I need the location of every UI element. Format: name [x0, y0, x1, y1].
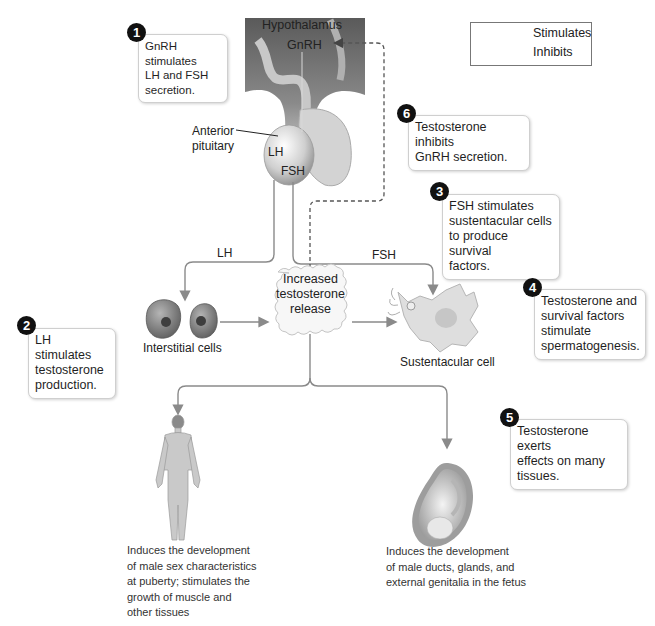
- lh-inside-label: LH: [268, 145, 283, 159]
- step-1-line: GnRH stimulates: [145, 39, 221, 68]
- step-2-callout: LH stimulates testosterone production.: [28, 328, 116, 399]
- step-6-badge: 6: [397, 104, 416, 123]
- sustentacular-cell-illustration: [388, 284, 478, 352]
- step-3-line: to produce survival: [449, 229, 553, 259]
- caption-line: other tissues: [127, 605, 257, 621]
- step-5-callout: Testosterone exerts effects on many tiss…: [510, 419, 628, 490]
- step-4-line: Testosterone and: [541, 294, 639, 309]
- caption-line: of male sex characteristics: [127, 559, 257, 575]
- testosterone-release-node: Increased testosterone release: [268, 265, 353, 333]
- fetus-illustration: [412, 463, 473, 547]
- step-1-line: secretion.: [145, 83, 221, 98]
- fsh-inside-label: FSH: [281, 164, 305, 178]
- step-2-line: production.: [35, 378, 109, 393]
- interstitial-cells-label: Interstitial cells: [143, 341, 222, 355]
- lh-arrow-label: LH: [217, 246, 232, 260]
- fsh-arrow-label: FSH: [372, 248, 396, 262]
- caption-line: Induces the development: [127, 543, 257, 559]
- interstitial-cells-illustration: [146, 300, 217, 338]
- sustentacular-cell-label: Sustentacular cell: [400, 355, 495, 369]
- adult-effects-caption: Induces the development of male sex char…: [127, 543, 257, 621]
- release-to-fetus-arrow: [310, 378, 447, 444]
- step-4-callout: Testosterone and survival factors stimul…: [534, 289, 646, 360]
- legend-inhibits: Inhibits: [533, 45, 573, 59]
- step-1-callout: GnRH stimulates LH and FSH secretion.: [138, 34, 228, 103]
- caption-line: Induces the development: [386, 544, 526, 560]
- anterior-pituitary-label-1: Anterior: [192, 124, 234, 138]
- caption-line: external genitalia in the fetus: [386, 575, 526, 591]
- adult-male-illustration: [156, 415, 200, 540]
- step-3-badge: 3: [430, 182, 449, 201]
- step-3-line: factors.: [449, 259, 553, 274]
- release-line-2: testosterone: [268, 287, 353, 302]
- step-3-line: sustentacular cells: [449, 214, 553, 229]
- step-6-callout: Testosterone inhibits GnRH secretion.: [408, 115, 530, 171]
- legend-inhibits-label: Inhibits: [533, 45, 573, 59]
- step-2-line: testosterone: [35, 363, 109, 378]
- step-4-line: spermatogenesis.: [541, 339, 639, 354]
- legend-stimulates: Stimulates: [533, 26, 591, 40]
- step-5-line: effects on many: [517, 454, 621, 469]
- fetus-effects-caption: Induces the development of male ducts, g…: [386, 544, 526, 591]
- caption-line: growth of muscle and: [127, 590, 257, 606]
- step-5-line: Testosterone exerts: [517, 424, 621, 454]
- step-4-line: survival factors: [541, 309, 639, 324]
- caption-line: at puberty; stimulates the: [127, 574, 257, 590]
- step-6-line: Testosterone inhibits: [415, 120, 523, 150]
- anterior-pituitary-label-2: pituitary: [192, 139, 234, 153]
- step-5-badge: 5: [500, 408, 519, 427]
- step-3-line: FSH stimulates: [449, 199, 553, 214]
- release-line-1: Increased: [268, 272, 353, 287]
- step-3-callout: FSH stimulates sustentacular cells to pr…: [442, 194, 560, 280]
- step-1-badge: 1: [127, 23, 146, 42]
- step-1-line: LH and FSH: [145, 68, 221, 83]
- step-2-line: LH stimulates: [35, 333, 109, 363]
- step-4-line: stimulate: [541, 324, 639, 339]
- caption-line: of male ducts, glands, and: [386, 560, 526, 576]
- step-2-badge: 2: [17, 316, 36, 335]
- lh-arrow: [185, 180, 274, 296]
- legend: Stimulates Inhibits: [470, 22, 592, 66]
- gnrh-label: GnRH: [287, 38, 322, 52]
- step-5-line: tissues.: [517, 469, 621, 484]
- hypothalamus-label: Hypothalamus: [262, 18, 342, 32]
- step-4-badge: 4: [523, 278, 542, 297]
- legend-stimulates-label: Stimulates: [533, 26, 591, 40]
- step-6-line: GnRH secretion.: [415, 150, 523, 165]
- release-line-3: release: [268, 302, 353, 317]
